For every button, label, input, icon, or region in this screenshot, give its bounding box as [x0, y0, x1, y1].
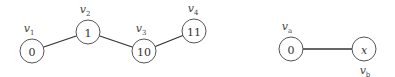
node-v2: 1 v2: [76, 3, 100, 44]
node-v3: 10 v3: [132, 22, 156, 63]
node-va: 0 va: [279, 20, 303, 61]
svg-text:x: x: [361, 44, 368, 57]
svg-text:10: 10: [137, 46, 151, 59]
label-va: va: [282, 20, 292, 35]
svg-text:0: 0: [288, 44, 295, 57]
svg-text:0: 0: [29, 46, 36, 59]
svg-text:1: 1: [85, 27, 92, 40]
label-v1: v1: [24, 22, 35, 37]
svg-text:11: 11: [187, 26, 201, 39]
label-vb: vb: [360, 64, 371, 77]
graph-diagram: 0 v1 1 v2 10 v3 11 v4 0 va x vb: [0, 0, 395, 77]
label-v4: v4: [188, 2, 199, 17]
node-v4: 11 v4: [182, 2, 206, 43]
node-v1: 0 v1: [20, 22, 44, 63]
label-v3: v3: [136, 22, 147, 37]
label-v2: v2: [80, 3, 91, 18]
node-vb: x vb: [352, 37, 376, 77]
